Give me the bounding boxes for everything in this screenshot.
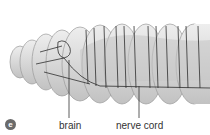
earthworm-illustration [0, 0, 210, 135]
brain-label: brain [59, 121, 81, 131]
gut [80, 35, 210, 82]
panel-label-badge: e [5, 119, 16, 130]
nerve-cord-label: nerve cord [116, 121, 163, 131]
